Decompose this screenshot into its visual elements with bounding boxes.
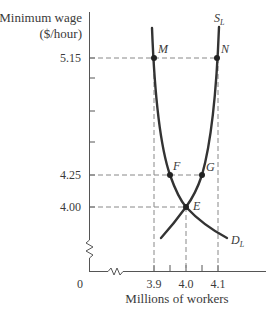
point-label-g: G [206,160,215,174]
point-m [151,55,157,61]
svg-text:DL: DL [230,233,245,249]
point-label-f: F [172,159,181,173]
supply-curve-label: SL [214,11,225,27]
point-label-n: N [220,42,230,56]
supply-curve [161,27,219,238]
y-tick-label-4-00: 4.00 [60,200,81,214]
point-g [199,172,205,178]
y-axis [86,12,95,272]
x-axis-title: Millions of workers [125,291,228,306]
x-tick-label-3-9: 3.9 [147,277,162,291]
point-e [183,204,189,210]
x-axis [90,265,267,275]
y-tick-label-4-25: 4.25 [60,168,81,182]
point-n [214,55,220,61]
point-label-e: E [192,199,201,213]
y-axis-title-line1: Minimum wage [0,10,82,25]
reference-lines [90,58,218,271]
svg-text:SL: SL [214,11,225,27]
y-axis-title-line2: ($/hour) [39,26,82,41]
demand-curve-label: DL [230,233,245,249]
x-tick-label-4-1: 4.1 [211,277,226,291]
chart: Minimum wage ($/hour) Millions of worker… [0,0,277,317]
y-tick-label-5-15: 5.15 [60,51,81,65]
origin-label: 0 [77,277,83,291]
point-label-m: M [157,42,169,56]
x-tick-label-4-0: 4.0 [179,277,194,291]
